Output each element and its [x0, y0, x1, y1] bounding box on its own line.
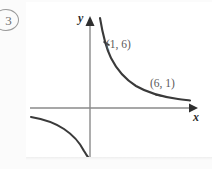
- point-marker-6-1: [156, 95, 162, 96]
- problem-number-badge: 3: [0, 9, 19, 31]
- point-label-1-6: (1, 6): [106, 38, 131, 50]
- figure-screenshot: 3 y x (1, 6) (6, 1): [0, 0, 212, 169]
- x-axis-label: x: [193, 110, 199, 125]
- hyperbola-branch-quadrant-1: [100, 18, 190, 101]
- y-axis-label: y: [78, 11, 83, 26]
- point-label-6-1: (6, 1): [150, 77, 175, 89]
- hyperbola-branch-quadrant-3: [31, 117, 88, 157]
- plot-area: [26, 2, 212, 157]
- y-axis-arrow-icon: [86, 16, 95, 26]
- hyperbola-graph: [26, 2, 212, 157]
